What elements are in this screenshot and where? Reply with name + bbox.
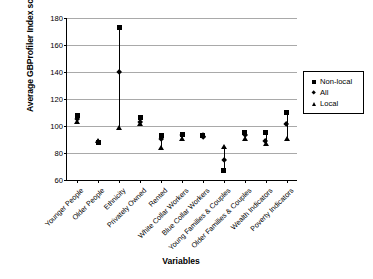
y-tick-label: 100 (50, 122, 63, 131)
x-tick-mark (245, 180, 246, 183)
y-gridline (67, 99, 297, 100)
legend-label: Local (320, 99, 338, 108)
data-point-triangle (200, 132, 206, 137)
y-gridline (67, 45, 297, 46)
legend-item-local: Local (309, 98, 359, 109)
legend-item-all: All (309, 87, 359, 98)
y-tick-mark (64, 153, 67, 154)
y-axis-title: Average GBProfiler Index score (25, 0, 35, 139)
x-axis-title: Variables (66, 256, 296, 266)
y-gridline (67, 153, 297, 154)
y-tick-label: 140 (50, 68, 63, 77)
y-tick-label: 180 (50, 14, 63, 23)
data-point-diamond (158, 136, 164, 142)
x-tick-mark (119, 180, 120, 183)
y-tick-label: 160 (50, 41, 63, 50)
data-point-triangle (95, 138, 101, 143)
chart-legend: Non-local All Local (303, 71, 364, 114)
y-gridline (67, 126, 297, 127)
x-tick-mark (287, 180, 288, 183)
y-tick-label: 80 (55, 149, 63, 158)
legend-label: Non-local (320, 77, 352, 86)
legend-item-non-local: Non-local (309, 76, 359, 87)
diamond-marker-icon (309, 91, 318, 94)
x-tick-mark (182, 180, 183, 183)
square-marker-icon (309, 80, 318, 84)
data-point-triangle (74, 119, 80, 124)
y-tick-label: 120 (50, 95, 63, 104)
y-tick-mark (64, 180, 67, 181)
data-point-triangle (284, 136, 290, 141)
data-point-square (117, 25, 122, 30)
x-tick-mark (203, 180, 204, 183)
data-point-square (221, 168, 226, 173)
data-point-triangle (221, 144, 227, 149)
data-point-triangle (263, 141, 269, 146)
x-tick-mark (266, 180, 267, 183)
y-gridline (67, 18, 297, 19)
data-point-triangle (137, 121, 143, 126)
x-tick-mark (98, 180, 99, 183)
plot-area: 6080100120140160180Younger PeopleOlder P… (66, 18, 297, 181)
triangle-marker-icon (309, 102, 318, 106)
y-tick-mark (64, 18, 67, 19)
x-tick-mark (77, 180, 78, 183)
y-tick-label: 60 (55, 176, 63, 185)
y-tick-mark (64, 72, 67, 73)
data-point-square (284, 110, 289, 115)
y-tick-mark (64, 99, 67, 100)
legend-label: All (320, 88, 328, 97)
data-point-diamond (221, 157, 227, 163)
chart-container: Average GBProfiler Index score 608010012… (0, 0, 373, 279)
range-line (119, 27, 120, 127)
x-tick-mark (224, 180, 225, 183)
y-gridline (67, 72, 297, 73)
x-tick-mark (161, 180, 162, 183)
data-point-triangle (116, 125, 122, 130)
x-tick-mark (140, 180, 141, 183)
data-point-square (263, 130, 268, 135)
data-point-triangle (242, 136, 248, 141)
data-point-triangle (179, 136, 185, 141)
data-point-diamond (116, 69, 122, 75)
y-tick-mark (64, 126, 67, 127)
y-tick-mark (64, 45, 67, 46)
data-point-triangle (158, 145, 164, 150)
